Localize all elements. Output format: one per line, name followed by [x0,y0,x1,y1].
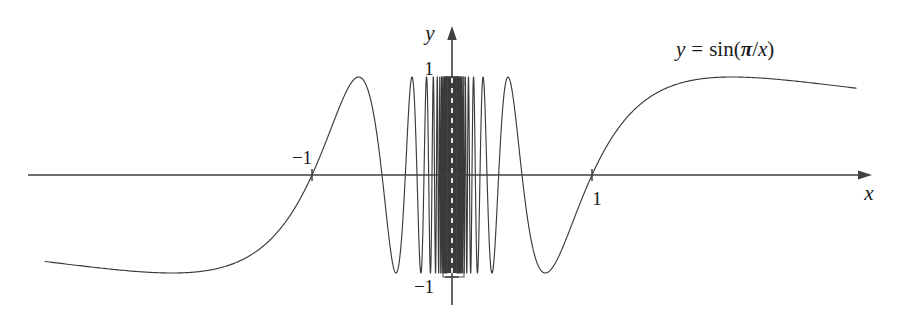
y-tick-label-negative-one: −1 [414,276,434,297]
equation-lhs: y [674,37,686,61]
y-tick-label-positive-one: 1 [424,58,434,79]
sine-reciprocal-plot: y x 1 −1 −1 1 y=sin(π/x) [0,0,908,316]
y-axis-label: y [423,21,435,45]
x-axis-label: x [863,181,874,205]
equation-equals: = [691,37,703,61]
x-tick-label-negative-one: −1 [292,147,312,168]
equation-pi: π [741,37,753,61]
equation-function: sin( [709,37,741,61]
x-tick-label-positive-one: 1 [592,188,602,209]
equation-close-paren: ) [767,37,774,61]
